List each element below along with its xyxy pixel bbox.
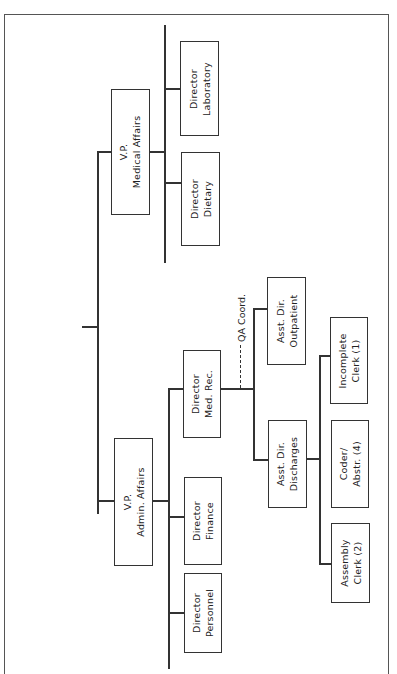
- qa-coord-label: QA Coord.: [236, 294, 247, 342]
- coder-abstractor-box: Coder/Abstr. (4): [331, 420, 369, 508]
- qa-dashed-line: [240, 345, 241, 388]
- director-med-rec-box: DirectorMed. Rec.: [183, 350, 221, 438]
- discharges-link: [253, 459, 268, 461]
- vp-medical-affairs-box: V.P.Medical Affairs: [111, 89, 150, 215]
- director-laboratory-box: DirectorLaboratory: [180, 41, 219, 136]
- director-personnel-box: DirectorPersonnel: [184, 573, 222, 653]
- dietary-link: [164, 182, 182, 184]
- medrec-branch: [221, 388, 253, 390]
- assembly-clerk-box: AssemblyClerk (2): [331, 523, 370, 603]
- root-connector: [82, 326, 98, 328]
- admin-branch: [152, 500, 169, 502]
- vp-medical-link: [97, 151, 112, 153]
- personnel-link: [168, 612, 184, 614]
- incomplete-clerk-box: IncompleteClerk (1): [330, 317, 368, 404]
- director-dietary-box: DirectorDietary: [181, 152, 220, 246]
- medrec-link: [168, 388, 183, 390]
- vp-spine: [97, 151, 99, 514]
- outpatient-link: [253, 308, 268, 310]
- discharges-spine: [319, 355, 321, 564]
- asst-dir-outpatient-box: Asst. Dir.Outpatient: [267, 277, 306, 365]
- medical-spine: [164, 25, 166, 263]
- medrec-spine: [253, 308, 255, 460]
- medical-branch: [150, 151, 165, 153]
- director-finance-box: DirectorFinance: [184, 477, 222, 565]
- vp-admin-affairs-box: V.P.Admin. Affairs: [114, 438, 153, 566]
- admin-spine: [168, 388, 170, 669]
- asst-dir-discharges-box: Asst. Dir.Discharges: [268, 420, 307, 508]
- vp-admin-link: [97, 500, 115, 502]
- finance-link: [168, 516, 184, 518]
